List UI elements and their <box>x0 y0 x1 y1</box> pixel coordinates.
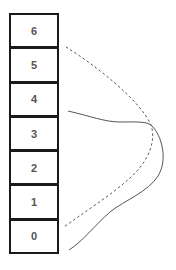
solid-curve <box>68 111 163 250</box>
dashed-curve <box>64 47 153 227</box>
curves-layer <box>0 0 176 270</box>
